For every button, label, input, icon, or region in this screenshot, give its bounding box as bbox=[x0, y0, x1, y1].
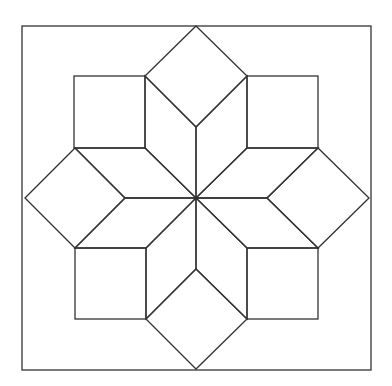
quilt-block-diagram bbox=[0, 0, 392, 386]
square-bottom-left bbox=[75, 248, 146, 319]
diamond-right bbox=[267, 148, 369, 248]
rhombus-s-left bbox=[146, 198, 196, 319]
square-top-right bbox=[247, 76, 318, 148]
diamond-bottom bbox=[146, 269, 247, 369]
rhombus-w-upper bbox=[75, 148, 196, 198]
square-bottom-right bbox=[247, 248, 318, 319]
rhombus-e-lower bbox=[196, 198, 318, 248]
square-top-left bbox=[74, 76, 145, 148]
star-rhombi bbox=[75, 76, 318, 319]
rhombus-w-lower bbox=[75, 198, 196, 248]
rhombus-n-left bbox=[145, 76, 196, 198]
rhombus-n-right bbox=[196, 76, 247, 198]
diamond-top bbox=[145, 26, 247, 127]
rhombus-e-upper bbox=[196, 148, 318, 198]
rhombus-s-right bbox=[196, 198, 247, 319]
diamond-left bbox=[25, 148, 125, 248]
